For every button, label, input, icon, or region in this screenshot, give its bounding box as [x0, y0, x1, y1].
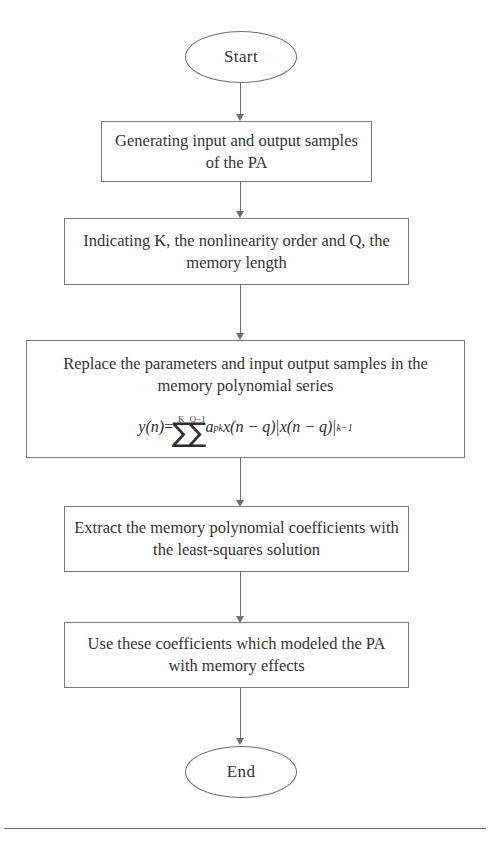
node-step2-label: Indicating K, the nonlinearity order and… [73, 230, 400, 274]
arrowhead-step1-to-step2 [236, 211, 244, 218]
node-step4-label: Extract the memory polynomial coefficien… [73, 517, 400, 561]
node-step1: Generating input and output samples of t… [101, 121, 372, 182]
connector-step2-to-step3 [240, 285, 241, 335]
node-step3-label: Replace the parameters and input output … [35, 353, 456, 397]
equation-coefficient-subscript: pk [214, 422, 223, 433]
equation-lhs: y(n) [138, 418, 164, 436]
equation-term1: x(n − q) [223, 418, 276, 436]
arrowhead-step2-to-step3 [236, 333, 244, 340]
node-step5-label: Use these coefficients which modeled the… [73, 633, 400, 677]
node-step4: Extract the memory polynomial coefficien… [64, 506, 409, 572]
node-end: End [185, 746, 297, 798]
node-step1-label: Generating input and output samples of t… [110, 130, 363, 174]
connector-step3-to-step4 [240, 458, 241, 502]
connector-step1-to-step2 [240, 182, 241, 213]
equation-summation-2: Q−1 ∑ [188, 415, 206, 444]
node-step3: Replace the parameters and input output … [26, 340, 465, 458]
connector-step4-to-step5 [240, 572, 241, 618]
memory-polynomial-equation: y(n) = K ∑ Q−1 ∑ apk x(n − q) | x(n − q)… [138, 413, 352, 442]
node-end-label: End [227, 762, 256, 782]
node-step2: Indicating K, the nonlinearity order and… [64, 218, 409, 285]
node-start-label: Start [224, 47, 258, 67]
arrowhead-start-to-step1 [236, 114, 244, 121]
connector-step5-to-end [240, 688, 241, 740]
arrowhead-step5-to-end [236, 738, 244, 745]
equation-term2: x(n − q) [280, 418, 333, 436]
page-divider-rule [4, 828, 486, 829]
equation-exponent: k−1 [337, 422, 353, 433]
node-start: Start [185, 31, 297, 83]
flowchart-diagram: Start Generating input and output sample… [0, 0, 490, 845]
sigma-icon-2: ∑ [188, 422, 206, 444]
node-step5: Use these coefficients which modeled the… [64, 622, 409, 688]
connector-start-to-step1 [240, 83, 241, 116]
equation-coefficient: a [206, 418, 214, 436]
